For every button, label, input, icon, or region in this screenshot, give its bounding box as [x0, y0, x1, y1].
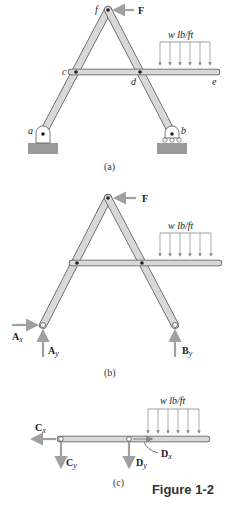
svg-text:Ax: Ax [12, 331, 23, 344]
caption-c: (c) [113, 477, 124, 489]
panel-b: F w lb/ft Ax Ay By (b) [12, 193, 219, 379]
caption-b: (b) [104, 367, 116, 379]
label-F: F [138, 5, 144, 16]
svg-text:Cx: Cx [35, 422, 46, 435]
figure-caption: Figure 1-2 [152, 482, 214, 497]
load-label-c: w lb/ft [160, 395, 186, 406]
panel-c: w lb/ft Cx Cy Dy Dx (c) [32, 395, 207, 489]
figure-svg: f F w lb/ft c d e a b (a) [0, 0, 228, 506]
label-b: b [181, 125, 186, 136]
svg-text:Cy: Cy [66, 457, 77, 470]
label-c: c [62, 66, 67, 77]
load-label-a: w lb/ft [168, 29, 194, 40]
label-e: e [212, 76, 217, 87]
label-F-b: F [142, 193, 148, 204]
svg-text:Dy: Dy [136, 457, 147, 470]
label-f: f [95, 4, 99, 15]
ground-a [28, 143, 58, 154]
svg-text:Ay: Ay [48, 345, 59, 358]
load-label-b: w lb/ft [168, 220, 194, 231]
label-d: d [131, 76, 137, 87]
svg-text:By: By [182, 345, 193, 358]
ground-b [157, 143, 187, 154]
panel-a: f F w lb/ft c d e a b (a) [28, 4, 217, 173]
label-a: a [28, 125, 33, 136]
caption-a: (a) [104, 161, 115, 173]
svg-text:Dx: Dx [161, 448, 172, 461]
